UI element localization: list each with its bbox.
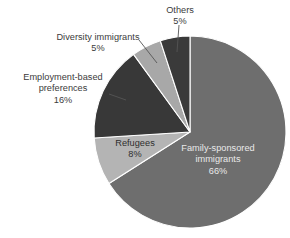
pie-label-refugees-name: Refugees xyxy=(104,138,166,149)
pie-label-refugees: Refugees 8% xyxy=(104,138,166,161)
pie-label-others-percent: 5% xyxy=(150,16,210,27)
pie-label-others-name: Others xyxy=(150,5,210,16)
pie-label-family-sponsored-immigrants: Family-sponsored immigrants 66% xyxy=(168,143,268,177)
pie-label-family-sponsored-immigrants-percent: 66% xyxy=(168,166,268,177)
pie-label-refugees-percent: 8% xyxy=(104,149,166,160)
pie-label-diversity-immigrants-percent: 5% xyxy=(32,43,164,54)
pie-slices xyxy=(94,36,286,228)
pie-chart-figure: Others 5% Diversity immigrants 5% Employ… xyxy=(0,0,290,238)
pie-label-diversity-immigrants-name: Diversity immigrants xyxy=(32,32,164,43)
pie-label-employment-based-preferences-name-line2: preferences xyxy=(2,83,124,94)
pie-label-family-sponsored-immigrants-name-line1: Family-sponsored xyxy=(168,143,268,154)
pie-label-others: Others 5% xyxy=(150,5,210,28)
pie-label-employment-based-preferences: Employment-based preferences 16% xyxy=(2,72,124,106)
pie-label-employment-based-preferences-percent: 16% xyxy=(2,95,124,106)
pie-label-employment-based-preferences-name-line1: Employment-based xyxy=(2,72,124,83)
pie-label-family-sponsored-immigrants-name-line2: immigrants xyxy=(168,154,268,165)
pie-label-diversity-immigrants: Diversity immigrants 5% xyxy=(32,32,164,55)
